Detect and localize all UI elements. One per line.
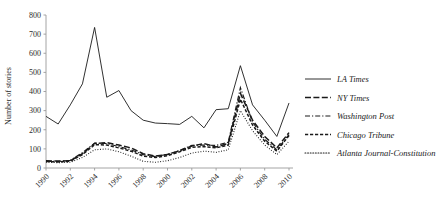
chart-canvas: 0100200300400500600700800 19901992199419… [0, 0, 448, 221]
x-tick-label: 2004 [203, 172, 221, 190]
legend-label: NY Times [336, 93, 370, 103]
x-tick-label: 2006 [228, 172, 246, 190]
y-axis-title: Number of stories [4, 67, 13, 125]
y-tick-label: 600 [29, 49, 41, 58]
x-tick-label: 2000 [155, 172, 173, 190]
y-tick-label: 200 [29, 126, 41, 135]
x-tick-label: 1994 [82, 172, 100, 190]
x-tick-label: 2008 [252, 172, 270, 190]
y-tick-label: 0 [37, 164, 41, 173]
y-tick-label: 500 [29, 68, 41, 77]
x-tick-label: 1996 [106, 172, 124, 190]
legend-item: NY Times [305, 93, 370, 103]
x-axis-tick-labels: 1990199219941996199820002002200420062008… [33, 172, 294, 190]
axis-lines [46, 15, 293, 168]
y-tick-label: 300 [29, 106, 41, 115]
chart-legend: LA TimesNY TimesWashington PostChicago T… [305, 74, 435, 158]
legend-item: Atlanta Journal-Constitution [305, 148, 435, 158]
legend-item: Chicago Tribune [305, 130, 395, 140]
y-tick-label: 100 [29, 145, 41, 154]
y-tick-label: 700 [29, 30, 41, 39]
x-tick-label: 2002 [179, 172, 197, 190]
series-line-chicago-tribune [46, 99, 289, 162]
legend-item: LA Times [305, 74, 369, 84]
legend-label: Atlanta Journal-Constitution [336, 148, 435, 158]
axis-tick-marks [44, 15, 290, 171]
data-series-group [46, 27, 289, 162]
y-tick-label: 800 [29, 11, 41, 20]
legend-label: Washington Post [337, 111, 395, 121]
x-tick-label: 1998 [130, 172, 148, 190]
y-axis-tick-labels: 0100200300400500600700800 [29, 11, 41, 173]
x-tick-label: 1990 [33, 172, 51, 190]
legend-item: Washington Post [305, 111, 395, 121]
line-chart-figure: 0100200300400500600700800 19901992199419… [0, 0, 448, 221]
x-tick-label: 2010 [276, 172, 294, 190]
x-tick-label: 1992 [58, 172, 76, 190]
y-tick-label: 400 [29, 87, 41, 96]
legend-label: Chicago Tribune [337, 130, 395, 140]
legend-label: LA Times [336, 74, 369, 84]
